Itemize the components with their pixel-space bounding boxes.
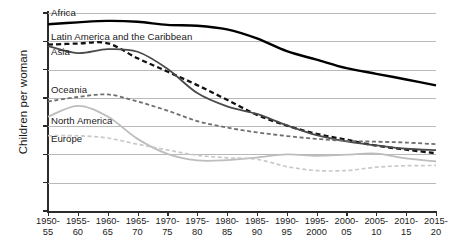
series-label: Europe (51, 133, 82, 144)
x-tick-label: 2015-20 (419, 216, 453, 237)
series-label: Oceania (51, 84, 87, 95)
line-series (48, 106, 436, 162)
line-series (48, 46, 436, 150)
series-label: North America (51, 115, 112, 126)
x-axis-line (47, 211, 436, 213)
plot-area: 01234567 1950-551955-601960-651965-70197… (48, 13, 436, 211)
series-lines (48, 13, 436, 211)
y-axis-title: Children per woman (17, 17, 29, 187)
series-label: Africa (51, 7, 76, 18)
line-series (48, 42, 436, 153)
series-label: Latin America and the Caribbean (51, 31, 192, 42)
series-label: Asia (51, 46, 70, 57)
